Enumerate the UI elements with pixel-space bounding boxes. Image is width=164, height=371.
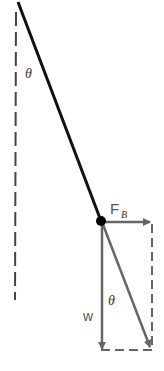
angle-label-bottom: θ xyxy=(108,293,115,308)
pendulum-force-diagram: θ F B θ w xyxy=(0,0,164,371)
angle-label-top: θ xyxy=(25,66,32,81)
buoyant-force-label: F xyxy=(110,200,119,217)
pendulum-string xyxy=(18,2,101,221)
weight-label: w xyxy=(82,308,94,324)
resultant-vector xyxy=(102,222,150,347)
buoyant-force-subscript: B xyxy=(121,209,127,220)
pendulum-bob xyxy=(96,216,106,226)
vertical-reference-dashed-line xyxy=(15,12,16,300)
